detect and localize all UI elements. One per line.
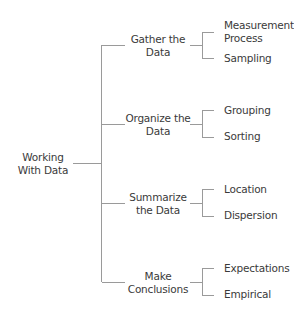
branch-node-organize: Organize the Data: [125, 112, 190, 137]
leaf-dispersion: Dispersion: [224, 209, 277, 222]
root-label-line2: With Data: [18, 164, 68, 177]
leaf-location: Location: [224, 183, 267, 196]
leaf-expectations: Expectations: [224, 262, 289, 275]
root-node: Working With Data: [18, 151, 68, 176]
tree-diagram: Working With Data Gather the Data Measur…: [0, 0, 294, 318]
branch-node-summarize: Summarize the Data: [129, 191, 187, 216]
leaf-measurement-process: Measurement Process: [224, 19, 294, 44]
branch-node-conclusions: Make Conclusions: [128, 270, 189, 295]
leaf-empirical: Empirical: [224, 288, 271, 301]
leaf-sampling: Sampling: [224, 52, 272, 65]
branch-node-gather: Gather the Data: [131, 33, 186, 58]
leaf-grouping: Grouping: [224, 104, 271, 117]
leaf-sorting: Sorting: [224, 130, 260, 143]
root-label-line1: Working: [18, 151, 68, 164]
